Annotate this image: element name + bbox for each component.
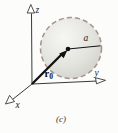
diagram-canvas: z y x a r0 (c) (0, 0, 118, 133)
sphere-center-dot (66, 47, 71, 52)
y-axis-label: y (94, 68, 100, 78)
z-axis-line (32, 14, 33, 85)
sphere-dashed-outline (41, 18, 102, 79)
figure-caption: (c) (56, 114, 66, 124)
physics-figure-sphere-at-r0: z y x a r0 (c) (0, 0, 118, 133)
sphere-radius-label: a (84, 33, 89, 43)
x-axis-label: x (15, 100, 21, 110)
position-vector-label-subscript: 0 (49, 72, 53, 81)
z-axis-label: z (35, 5, 40, 15)
